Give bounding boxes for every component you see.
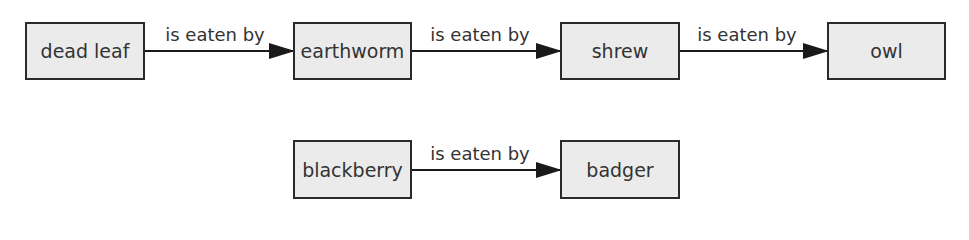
arrow-shrew-to-owl xyxy=(680,50,827,52)
edge-label: is eaten by xyxy=(425,143,535,164)
arrow-earthworm-to-shrew xyxy=(412,50,560,52)
node-dead-leaf: dead leaf xyxy=(25,22,145,80)
node-label: shrew xyxy=(592,40,649,62)
arrow-dead-leaf-to-earthworm xyxy=(145,50,293,52)
node-owl: owl xyxy=(827,22,946,80)
edge-label: is eaten by xyxy=(425,24,535,45)
edge-label: is eaten by xyxy=(692,24,802,45)
edge-label: is eaten by xyxy=(160,24,270,45)
node-shrew: shrew xyxy=(560,22,680,80)
node-label: dead leaf xyxy=(41,40,130,62)
node-label: earthworm xyxy=(301,40,405,62)
arrowhead-icon xyxy=(536,43,562,59)
node-blackberry: blackberry xyxy=(293,140,412,199)
node-label: badger xyxy=(586,159,653,181)
node-earthworm: earthworm xyxy=(293,22,412,80)
node-label: owl xyxy=(870,40,902,62)
arrowhead-icon xyxy=(536,162,562,178)
node-badger: badger xyxy=(560,140,680,199)
arrowhead-icon xyxy=(803,43,829,59)
arrow-blackberry-to-badger xyxy=(412,169,560,171)
node-label: blackberry xyxy=(302,159,403,181)
arrowhead-icon xyxy=(269,43,295,59)
